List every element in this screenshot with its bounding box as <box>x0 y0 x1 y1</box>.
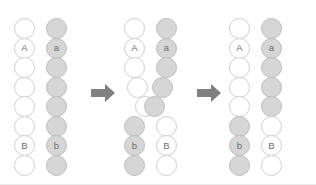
chromatid-bead <box>144 96 165 117</box>
allele-label: b <box>132 141 137 151</box>
allele-label: B <box>163 141 169 151</box>
allele-bead-a: a <box>156 38 177 59</box>
allele-label: b <box>237 141 242 151</box>
chromatid-bead <box>46 96 67 117</box>
allele-label: a <box>164 43 169 53</box>
allele-bead-B: B <box>261 135 282 156</box>
chromatid-bead <box>261 116 282 137</box>
chromatid-bead <box>124 116 145 137</box>
allele-bead-B: B <box>14 135 35 156</box>
allele-bead-A: A <box>14 38 35 59</box>
crossing-over-diagram: ABab AbaB AbaB <box>0 0 316 185</box>
allele-bead-b: b <box>229 135 250 156</box>
chromatid-bead <box>229 57 250 78</box>
panel-after: AbaB <box>215 0 310 185</box>
chromatid-bead <box>46 18 67 39</box>
chromatid-bead <box>229 77 250 98</box>
chromatid-bead <box>124 57 145 78</box>
allele-bead-b: b <box>124 135 145 156</box>
chromatid-bead <box>229 155 250 176</box>
chromatid-bead <box>14 96 35 117</box>
chromatid-bead <box>156 116 177 137</box>
allele-bead-A: A <box>229 38 250 59</box>
chromatid-bead <box>261 18 282 39</box>
allele-label: B <box>21 141 27 151</box>
chromatid-bead <box>46 155 67 176</box>
chromatid-bead <box>46 116 67 137</box>
chromatid-bead <box>156 18 177 39</box>
allele-label: A <box>236 43 242 53</box>
panel-crossover: AbaB <box>110 0 205 185</box>
allele-label: A <box>131 43 137 53</box>
allele-bead-B: B <box>156 135 177 156</box>
allele-bead-a: a <box>261 38 282 59</box>
allele-label: b <box>54 141 59 151</box>
chromatid-bead <box>14 155 35 176</box>
chromatid-bead <box>124 18 145 39</box>
chromatid-bead <box>156 155 177 176</box>
chromatid-bead <box>229 116 250 137</box>
chromatid-bead <box>152 77 173 98</box>
chromatid-bead <box>261 155 282 176</box>
allele-label: a <box>54 43 59 53</box>
allele-label: A <box>21 43 27 53</box>
chromatid-bead <box>156 57 177 78</box>
chromatid-bead <box>124 155 145 176</box>
chromatid-bead <box>261 57 282 78</box>
chromatid-bead <box>14 18 35 39</box>
chromatid-bead <box>46 77 67 98</box>
chromatid-bead <box>46 57 67 78</box>
allele-bead-b: b <box>46 135 67 156</box>
allele-label: B <box>268 141 274 151</box>
chromatid-bead <box>229 18 250 39</box>
allele-bead-A: A <box>124 38 145 59</box>
allele-bead-a: a <box>46 38 67 59</box>
allele-label: a <box>269 43 274 53</box>
chromatid-bead <box>261 77 282 98</box>
chromatid-bead <box>14 57 35 78</box>
chromatid-bead <box>14 77 35 98</box>
chromatid-bead <box>14 116 35 137</box>
chromatid-bead <box>229 96 250 117</box>
panel-before: ABab <box>0 0 95 185</box>
chromatid-bead <box>127 77 148 98</box>
chromatid-bead <box>261 96 282 117</box>
